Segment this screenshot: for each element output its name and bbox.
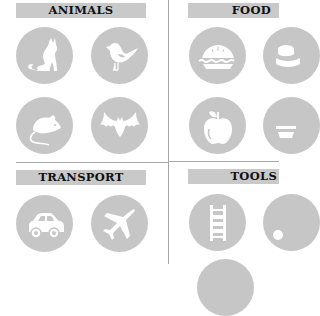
category-tile-food[interactable] <box>263 97 320 154</box>
category-tile-mouse[interactable] <box>16 97 73 154</box>
category-tile-ladder[interactable] <box>189 194 246 251</box>
section-header-food: FOOD <box>188 3 279 18</box>
category-tile-apple[interactable] <box>189 97 246 154</box>
category-tile-car[interactable] <box>16 195 73 252</box>
category-tile-cat[interactable] <box>16 27 73 84</box>
row-divider-right <box>168 161 279 162</box>
apple-icon <box>196 104 240 148</box>
category-tile-partial[interactable] <box>197 259 254 316</box>
section-header-tools: TOOLS <box>188 169 279 184</box>
section-header-animals: ANIMALS <box>16 3 146 18</box>
cat-icon <box>23 34 67 78</box>
category-tile-bird[interactable] <box>91 27 148 84</box>
section-header-transport: TRANSPORT <box>16 170 146 185</box>
mouse-icon <box>23 104 67 148</box>
category-tile-cake[interactable] <box>263 27 320 84</box>
category-tile-pie[interactable] <box>189 27 246 84</box>
row-divider-left <box>16 162 168 163</box>
bird-icon <box>98 34 142 78</box>
car-icon <box>23 202 67 246</box>
column-divider <box>168 0 169 264</box>
ladder-icon <box>196 201 240 245</box>
pie-icon <box>196 34 240 78</box>
category-tile-airplane[interactable] <box>91 195 148 252</box>
airplane-icon <box>98 202 142 246</box>
food-icon <box>270 104 314 148</box>
category-tile-bat[interactable] <box>91 97 148 154</box>
cake-icon <box>270 34 314 78</box>
category-tile-tool[interactable] <box>263 194 320 251</box>
tool-icon <box>270 201 314 245</box>
bat-icon <box>98 104 142 148</box>
